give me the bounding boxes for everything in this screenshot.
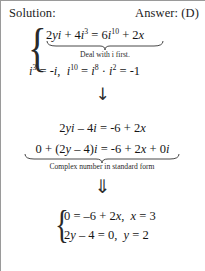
res2-equals-2: = (132, 228, 139, 242)
eq1-plus-2: + (122, 28, 129, 42)
result-line-1: 0 = –6 + 2x, x = 3 (64, 209, 156, 224)
eq3-minus: – (78, 121, 84, 135)
res1-neg-6: –6 (84, 209, 97, 223)
eq3-i-1: i (71, 121, 74, 135)
underbrace-icon (46, 41, 164, 50)
res1-plus: + (99, 209, 106, 223)
caption-step-1: Deal with i first. (46, 50, 164, 59)
res2-value-4: 4 (88, 228, 94, 242)
eq2-equals-b: = (81, 64, 88, 78)
eq2-multiplication-dot: · (102, 64, 106, 78)
eq1-exponent-10: 10 (111, 27, 119, 36)
res2-minus: – (79, 228, 85, 242)
eq3-var-x: x (140, 121, 146, 135)
res1-equals-2: = (139, 209, 146, 223)
eq2-exponent-2: 2 (113, 63, 117, 72)
underbrace-step-1 (46, 41, 164, 50)
eq1-plus-1: + (64, 28, 71, 42)
eq3-i-2: i (93, 121, 96, 135)
eq3-plus: + (124, 121, 131, 135)
eq2-exponent-3: 3 (32, 63, 36, 72)
eq1-var-x: x (139, 28, 145, 42)
eq1-exponent-3: 3 (84, 27, 88, 36)
res1-equals-1: = (73, 209, 80, 223)
eq3-equals: = (100, 121, 107, 135)
top-rule-divider (0, 0, 205, 1)
result-line-2: 2y – 4 = 0, y = 2 (64, 228, 149, 243)
eq2-neg-one: -1 (130, 64, 140, 78)
res2-var-y-2: y (124, 228, 130, 242)
res2-comma: , (114, 228, 117, 242)
answer-label: Answer: (D) (135, 6, 199, 21)
res1-value-3: 3 (149, 209, 155, 223)
res2-equals-1: = (98, 228, 105, 242)
res1-var-x-2: x (131, 209, 137, 223)
eq1-equals: = (91, 28, 98, 42)
eq2-equals-c: = (120, 64, 127, 78)
res1-comma: , (121, 209, 124, 223)
solution-page: Solution: Answer: (D) { 2yi + 4i3 = 6i10… (0, 0, 205, 271)
res2-value-2: 2 (142, 228, 148, 242)
res2-var-y: y (70, 228, 76, 242)
eq2-exponent-10: 10 (70, 63, 78, 72)
equation-step-3: 2yi – 4i = -6 + 2x (59, 121, 145, 135)
eq2-exponent-8: 8 (95, 63, 99, 72)
equation-step-3-wrapper: 2yi – 4i = -6 + 2x (0, 118, 205, 136)
res1-zero: 0 (64, 209, 70, 223)
double-down-arrow-icon: ⇓ (0, 177, 205, 196)
eq1-imaginary-unit-1: i (58, 28, 61, 42)
caption-step-4: Complex number in standard form (14, 162, 190, 171)
down-arrow-icon: ↓ (0, 86, 205, 103)
eq2-comma: , (57, 64, 60, 78)
equation-step-2: i3 = -i, i10 = i8 · i2 = -1 (29, 64, 140, 79)
eq2-equals-a: = (39, 64, 46, 78)
eq3-neg-6: -6 (110, 121, 120, 135)
